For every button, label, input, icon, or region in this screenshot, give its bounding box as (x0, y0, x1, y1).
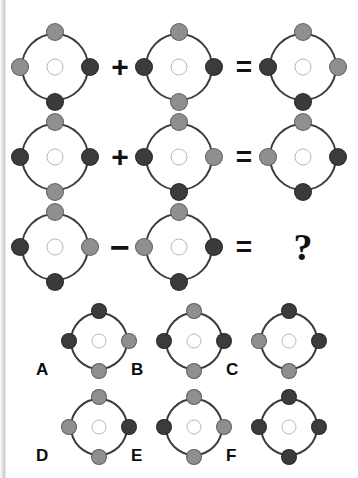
node-bottom (281, 449, 297, 465)
node-right (205, 58, 223, 76)
node-right (205, 238, 223, 256)
row-2-operator: + (104, 114, 136, 200)
answer-options: A B (0, 300, 358, 478)
node-right (81, 148, 99, 166)
answer-option-c[interactable]: C (218, 300, 330, 388)
node-top (46, 113, 64, 131)
node-bottom (294, 183, 312, 201)
ring-figure (260, 24, 346, 110)
minus-icon: − (110, 230, 130, 264)
answer-option-f[interactable]: F (218, 386, 330, 474)
ring-hub (47, 239, 64, 256)
node-right (329, 58, 347, 76)
node-left (61, 419, 77, 435)
node-left (61, 333, 77, 349)
node-top (91, 303, 107, 319)
ring-figure (252, 390, 326, 464)
ring-figure (136, 204, 222, 290)
row-1-operand-b (136, 24, 228, 110)
ring-figure (260, 114, 346, 200)
row-2-equals: = (228, 114, 260, 200)
ring-hub (171, 59, 188, 76)
node-top (46, 203, 64, 221)
node-left (156, 333, 172, 349)
node-left (11, 58, 29, 76)
ring-hub (171, 149, 188, 166)
ring-figure (12, 204, 98, 290)
node-top (46, 23, 64, 41)
ring-hub (92, 420, 107, 435)
ring-hub (187, 334, 202, 349)
node-bottom (186, 449, 202, 465)
node-left (135, 58, 153, 76)
ring-figure (136, 24, 222, 110)
node-left (259, 58, 277, 76)
plus-icon: + (111, 52, 129, 82)
answer-option-label: E (131, 446, 142, 466)
node-bottom (46, 93, 64, 111)
node-right (205, 148, 223, 166)
node-bottom (170, 183, 188, 201)
puzzle-sheet: + = (0, 0, 358, 478)
node-left (135, 238, 153, 256)
node-top (91, 389, 107, 405)
ring-figure (12, 24, 98, 110)
ring-hub (295, 59, 312, 76)
ring-hub (47, 149, 64, 166)
node-top (294, 23, 312, 41)
ring-hub (47, 59, 64, 76)
answer-option-label: C (226, 360, 238, 380)
node-right (81, 238, 99, 256)
node-left (135, 148, 153, 166)
node-bottom (46, 273, 64, 291)
row-2-operand-b (136, 114, 228, 200)
row-1-operator: + (104, 24, 136, 110)
node-left (11, 238, 29, 256)
node-bottom (91, 363, 107, 379)
node-right (81, 58, 99, 76)
equals-icon: = (236, 143, 252, 171)
question-mark-icon: ? (294, 228, 313, 266)
node-left (251, 333, 267, 349)
node-top (281, 389, 297, 405)
node-bottom (46, 183, 64, 201)
row-1-result (260, 24, 352, 110)
equation-row-2: + = (0, 114, 358, 200)
ring-figure (252, 304, 326, 378)
node-left (11, 148, 29, 166)
unknown-slot: ? (260, 204, 346, 290)
node-right (311, 419, 327, 435)
row-3-operand-a (12, 204, 104, 290)
equals-icon: = (236, 53, 252, 81)
node-top (294, 113, 312, 131)
row-3-operand-b (136, 204, 228, 290)
node-top (170, 113, 188, 131)
answer-option-label: B (131, 360, 143, 380)
node-bottom (91, 449, 107, 465)
ring-hub (92, 334, 107, 349)
node-bottom (281, 363, 297, 379)
node-bottom (294, 93, 312, 111)
ring-hub (282, 334, 297, 349)
node-bottom (170, 93, 188, 111)
node-top (186, 389, 202, 405)
row-3-equals: = (228, 204, 260, 290)
ring-hub (282, 420, 297, 435)
ring-figure (136, 114, 222, 200)
node-left (251, 419, 267, 435)
row-2-operand-a (12, 114, 104, 200)
node-left (156, 419, 172, 435)
ring-hub (187, 420, 202, 435)
node-top (170, 203, 188, 221)
node-top (170, 23, 188, 41)
node-top (281, 303, 297, 319)
node-top (186, 303, 202, 319)
row-1-equals: = (228, 24, 260, 110)
equation-row-3: − = ? (0, 204, 358, 290)
answer-options-row-2: D E (0, 386, 358, 474)
row-1-operand-a (12, 24, 104, 110)
ring-hub (295, 149, 312, 166)
ring-hub (171, 239, 188, 256)
equals-icon: = (236, 233, 252, 261)
node-left (259, 148, 277, 166)
